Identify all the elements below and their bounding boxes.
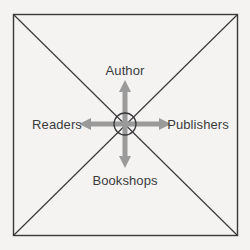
node-label-bookshops: Bookshops: [92, 174, 157, 187]
node-label-readers: Readers: [32, 118, 82, 131]
node-label-publishers: Publishers: [167, 118, 229, 131]
diagram-canvas: Author Readers Publishers Bookshops: [0, 0, 250, 250]
node-label-author: Author: [106, 64, 145, 77]
arrow-right-icon: [125, 118, 171, 130]
arrow-left-icon: [79, 118, 125, 130]
arrow-up-icon: [119, 80, 131, 124]
arrow-down-icon: [119, 124, 131, 168]
